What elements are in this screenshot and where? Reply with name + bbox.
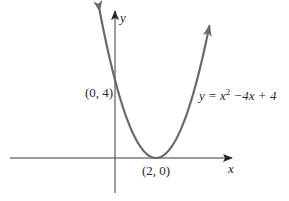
- vertex-label: (2, 0): [142, 164, 170, 177]
- y-axis-label: y: [120, 11, 126, 24]
- equation-label: y = x2 −4x + 4: [199, 88, 276, 102]
- x-axis-label: x: [228, 162, 234, 175]
- parabola-curve: [100, 11, 210, 158]
- y-intercept-label: (0, 4): [85, 86, 113, 99]
- equation-suffix: −4x + 4: [230, 88, 276, 103]
- equation-prefix: y = x: [199, 88, 226, 103]
